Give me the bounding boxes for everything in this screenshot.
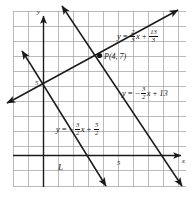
eq1-variable: x (136, 32, 140, 41)
eq3-intercept-numerator: 5 (94, 122, 99, 129)
eq3-slope-numerator: 3 (75, 122, 80, 129)
point-P-label: P(4, 7) (104, 53, 126, 61)
eq1-slope-fraction: 2 3 (130, 29, 135, 44)
eq3-y: y (56, 125, 60, 134)
eq3-slope-fraction: 3 2 (75, 122, 80, 137)
eq3-intercept-denominator: 2 (94, 129, 99, 137)
x-axis-tick-label-5: 5 (117, 160, 120, 167)
eq3-plus: + (86, 125, 92, 134)
line-2-top-arrow (62, 6, 66, 12)
y-axis-label: y (37, 9, 40, 16)
eq2-slope-numerator: 3 (141, 86, 146, 93)
eq2-minus: − (135, 89, 141, 98)
eq3-equals: = (61, 125, 67, 134)
eq1-intercept-fraction: 13 3 (149, 29, 158, 44)
eq1-equals: = (122, 32, 128, 41)
eq1-slope-numerator: 2 (130, 29, 135, 36)
x-axis-label: x (182, 158, 185, 165)
eq3-intercept-fraction: 5 2 (94, 122, 99, 137)
eq2-equals: = (127, 89, 133, 98)
eq2-y: y (122, 89, 126, 98)
equation-line-1: y = 2 3 x + 13 3 (117, 29, 158, 44)
coordinate-graph-figure: y x 5 5 P(4, 7) L y = 2 3 x + 13 3 y = −… (0, 0, 196, 201)
eq1-y: y (117, 32, 121, 41)
eq2-plus: + (152, 89, 158, 98)
line-L-label: L (58, 163, 63, 172)
eq2-slope-denominator: 2 (141, 93, 146, 101)
eq1-slope-denominator: 3 (130, 36, 135, 44)
eq3-variable: x (81, 125, 85, 134)
point-P-marker (97, 53, 102, 58)
line-1-left-arrow (7, 100, 13, 103)
eq2-intercept: 13 (159, 89, 168, 98)
eq1-intercept-denominator: 3 (149, 36, 158, 44)
equation-line-2: y = − 3 2 x + 13 (122, 86, 168, 101)
eq2-slope-fraction: 3 2 (141, 86, 146, 101)
line-3-top-arrow (22, 51, 31, 65)
equation-line-3: y = − 3 2 x + 5 2 (56, 122, 100, 137)
eq1-plus: + (141, 32, 147, 41)
eq1-intercept-numerator: 13 (149, 29, 158, 36)
eq2-variable: x (147, 89, 151, 98)
y-axis-tick-label-5: 5 (35, 80, 38, 87)
eq3-minus: − (69, 125, 75, 134)
eq3-slope-denominator: 2 (75, 129, 80, 137)
